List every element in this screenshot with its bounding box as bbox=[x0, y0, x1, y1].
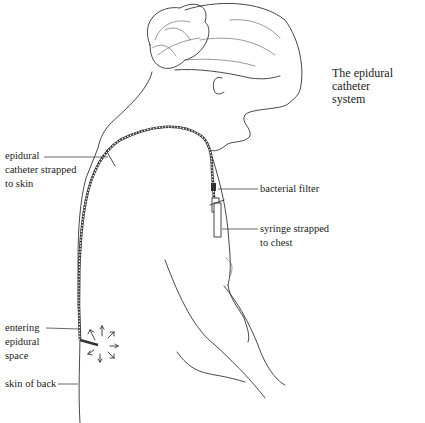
label-bacterial-filter: bacterial filter bbox=[260, 182, 319, 196]
filter-and-syringe bbox=[210, 183, 224, 237]
hair-bun bbox=[147, 4, 209, 68]
epidural-catheter bbox=[79, 127, 214, 345]
label-line: syringe strapped bbox=[260, 222, 329, 236]
title-line-2: system bbox=[332, 93, 425, 106]
label-line: epidural bbox=[5, 335, 39, 349]
label-line: catheter strapped bbox=[5, 163, 76, 177]
label-line: to chest bbox=[260, 236, 329, 250]
label-line: space bbox=[5, 349, 39, 363]
head bbox=[175, 3, 302, 150]
figure-drawing bbox=[0, 0, 425, 423]
label-line: entering bbox=[5, 321, 39, 335]
epidural-illustration: The epidural catheter system epidural ca… bbox=[0, 0, 425, 423]
title-line-1: The epidural catheter bbox=[332, 67, 425, 93]
body-outline bbox=[78, 72, 285, 423]
label-line: epidural bbox=[5, 149, 76, 163]
label-skin-of-back: skin of back bbox=[5, 377, 56, 391]
label-line: to skin bbox=[5, 177, 76, 191]
label-syringe: syringe strapped to chest bbox=[260, 222, 329, 250]
label-entering-epidural-space: entering epidural space bbox=[5, 321, 39, 363]
label-catheter-strapped: epidural catheter strapped to skin bbox=[5, 149, 76, 191]
leader-lines bbox=[44, 157, 258, 384]
figure-title: The epidural catheter system bbox=[332, 67, 425, 106]
